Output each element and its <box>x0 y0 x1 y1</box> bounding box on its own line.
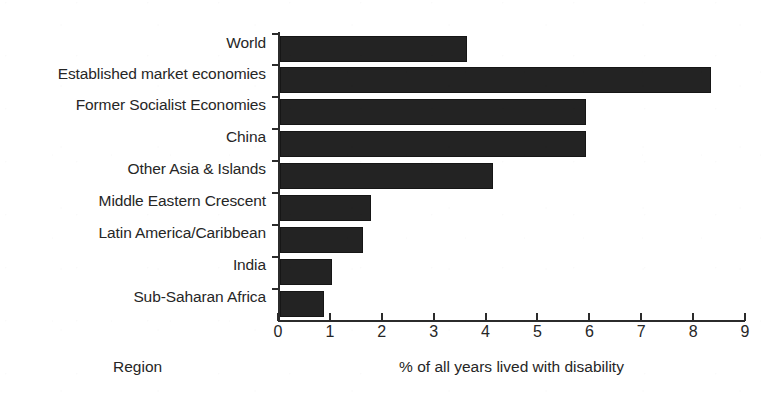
category-label-sub-saharan-africa: Sub-Saharan Africa <box>133 284 266 310</box>
category-label-middle-eastern-crescent: Middle Eastern Crescent <box>99 188 266 214</box>
region-axis-title: Region <box>113 358 162 376</box>
category-label-china: China <box>226 124 266 150</box>
category-axis-tick <box>272 256 279 258</box>
category-axis-tick <box>272 288 279 290</box>
value-axis-tick-label: 3 <box>419 323 449 341</box>
bar-established-market-economies <box>280 67 711 93</box>
bar-chart-figure: World Established market economies Forme… <box>0 0 776 398</box>
value-axis-tick <box>329 313 331 321</box>
value-axis-tick-label: 2 <box>367 323 397 341</box>
category-axis-tick <box>272 96 279 98</box>
category-label-other-asia-islands: Other Asia & Islands <box>128 156 266 182</box>
value-axis-tick <box>692 313 694 321</box>
category-axis-tick <box>272 64 279 66</box>
category-label-india: India <box>233 252 266 278</box>
value-axis-tick-label: 8 <box>678 323 708 341</box>
bar-sub-saharan-africa <box>280 291 324 317</box>
category-label-latin-america-caribbean: Latin America/Caribbean <box>99 220 266 246</box>
value-axis-tick <box>277 313 279 321</box>
value-axis-tick <box>536 313 538 321</box>
value-axis-tick <box>381 313 383 321</box>
category-axis-tick <box>272 128 279 130</box>
bar-middle-eastern-crescent <box>280 195 371 221</box>
category-axis-tick <box>272 192 279 194</box>
value-axis-tick <box>640 313 642 321</box>
value-axis-tick-label: 5 <box>522 323 552 341</box>
category-label-former-socialist-economies: Former Socialist Economies <box>76 92 266 118</box>
value-axis-tick-label: 6 <box>574 323 604 341</box>
bar-world <box>280 36 467 62</box>
value-axis-tick <box>433 313 435 321</box>
bar-former-socialist-economies <box>280 99 586 125</box>
value-axis-tick <box>588 313 590 321</box>
category-label-world: World <box>226 30 266 56</box>
value-axis-tick <box>744 313 746 321</box>
value-axis-tick <box>485 313 487 321</box>
value-axis-tick-label: 9 <box>730 323 760 341</box>
category-axis-tick <box>272 224 279 226</box>
bar-latin-america-caribbean <box>280 227 363 253</box>
value-axis-tick-label: 7 <box>626 323 656 341</box>
value-axis-line <box>278 320 745 322</box>
bar-china <box>280 131 586 157</box>
category-axis-tick <box>272 160 279 162</box>
value-axis-title: % of all years lived with disability <box>278 358 745 376</box>
value-axis-tick-label: 1 <box>315 323 345 341</box>
category-axis-tick <box>272 33 279 35</box>
value-axis-tick-label: 0 <box>263 323 293 341</box>
bar-india <box>280 259 332 285</box>
value-axis-tick-label: 4 <box>471 323 501 341</box>
bar-other-asia-islands <box>280 163 493 189</box>
category-label-established-market-economies: Established market economies <box>58 61 266 87</box>
